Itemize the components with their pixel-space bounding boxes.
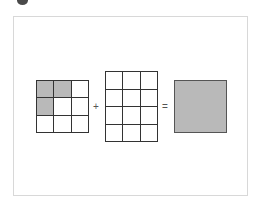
grid-cell	[72, 98, 89, 115]
grid-cell	[72, 81, 89, 98]
grid-cell-filled	[37, 81, 54, 98]
grid-cell-filled	[37, 98, 54, 115]
grid-cell	[123, 90, 140, 108]
grid-cell	[54, 98, 71, 115]
grid-cell	[141, 125, 158, 143]
grid-cell	[123, 72, 140, 90]
grid-cell	[106, 72, 123, 90]
grid-cell	[54, 116, 71, 133]
equals-sign: =	[162, 102, 168, 112]
grid-cell	[106, 90, 123, 108]
grid-cell-filled	[54, 81, 71, 98]
grid-cell	[123, 107, 140, 125]
plus-sign: +	[93, 102, 99, 112]
left-grid	[36, 80, 89, 133]
grid-cell	[141, 90, 158, 108]
grid-cell	[106, 107, 123, 125]
grid-cell	[37, 116, 54, 133]
grid-cell	[123, 125, 140, 143]
grid-cell	[72, 116, 89, 133]
grid-cell	[106, 125, 123, 143]
corner-marker	[17, 0, 28, 5]
result-square	[174, 80, 227, 133]
grid-cell	[141, 72, 158, 90]
middle-grid	[105, 71, 158, 142]
grid-cell	[141, 107, 158, 125]
